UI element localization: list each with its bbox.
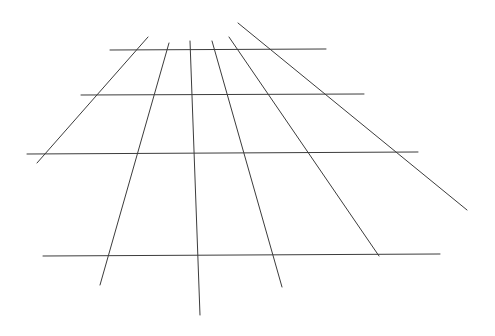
converging-line-1 [37,37,148,163]
horizontal-lines [27,49,440,256]
horizontal-line-2 [81,94,364,95]
converging-line-5 [229,37,379,256]
horizontal-line-3 [27,152,418,154]
horizontal-line-1 [110,49,326,50]
horizontal-line-4 [43,254,440,256]
perspective-grid-drawing [0,0,495,336]
converging-line-3 [190,41,200,315]
converging-line-4 [212,41,282,287]
converging-lines [37,23,467,315]
converging-line-6 [238,23,467,210]
